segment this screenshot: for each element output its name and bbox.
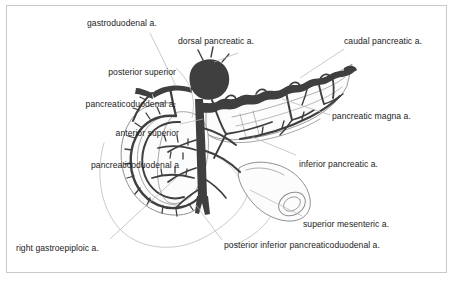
label-right-gastroepiploic-artery: right gastroepiploic a. [16,243,99,254]
label-anterior-superior-pancreaticoduodenal-artery: anterior superior pancreaticoduodenal a [0,107,179,191]
label-posterior-inferior-pancreaticoduodenal-artery: posterior inferior pancreaticoduodenal a… [224,240,380,251]
label-anterior-superior-line2: pancreaticoduodenal a [0,160,179,171]
label-pancreatic-magna-artery: pancreatic magna a. [332,111,411,122]
label-caudal-pancreatic-artery: caudal pancreatic a. [344,36,422,47]
celiac-trunk-mass [189,47,229,100]
label-anterior-superior-line1: anterior superior [0,128,179,139]
anatomy-figure: .ink { fill: none; stroke: #3f3f3f; stro… [0,0,455,283]
label-dorsal-pancreatic-artery: dorsal pancreatic a. [178,36,254,47]
label-posterior-superior-line1: posterior superior [0,67,176,78]
label-superior-mesenteric-artery: superior mesenteric a. [303,219,389,230]
label-inferior-pancreatic-artery: inferior pancreatic a. [299,159,378,170]
jejunum-cut-end [238,162,310,221]
label-gastroduodenal-artery: gastroduodenal a. [87,18,157,29]
